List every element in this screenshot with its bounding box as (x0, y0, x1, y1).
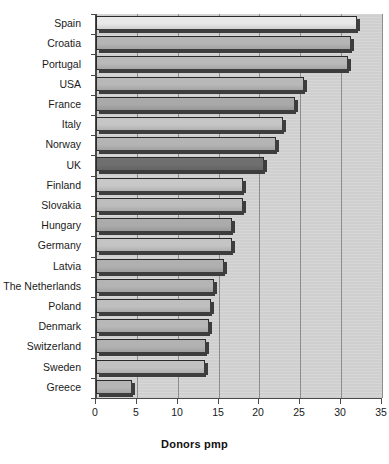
bar-denmark (96, 319, 209, 333)
x-tick-15 (218, 399, 219, 404)
bar-usa (96, 77, 304, 91)
y-label-greece: Greece (47, 381, 81, 393)
y-label-norway: Norway (45, 138, 81, 150)
y-label-croatia: Croatia (47, 37, 81, 49)
bar-croatia (96, 36, 351, 50)
y-label-slovakia: Slovakia (41, 199, 81, 211)
x-tick-25 (299, 399, 300, 404)
x-tick-label-20: 20 (252, 406, 264, 418)
x-tick-5 (136, 399, 137, 404)
y-label-latvia: Latvia (53, 260, 81, 272)
bar-sweden (96, 360, 205, 374)
bar-hungary (96, 218, 232, 232)
x-tick-35 (381, 399, 382, 404)
y-label-uk: UK (66, 159, 81, 171)
bar-slovakia (96, 198, 243, 212)
x-tick-20 (258, 399, 259, 404)
donors-pmp-bar-chart: SpainCroatiaPortugalUSAFranceItalyNorway… (0, 0, 389, 464)
x-tick-10 (177, 399, 178, 404)
y-label-germany: Germany (38, 239, 81, 251)
x-tick-0 (95, 399, 96, 404)
y-label-sweden: Sweden (43, 361, 81, 373)
bar-finland (96, 178, 243, 192)
y-label-poland: Poland (48, 300, 81, 312)
bars-layer (96, 14, 382, 398)
bar-germany (96, 238, 232, 252)
y-label-the-netherlands: The Netherlands (3, 280, 81, 292)
bar-france (96, 97, 295, 111)
y-label-italy: Italy (62, 118, 81, 130)
x-axis-line (95, 398, 382, 399)
bar-norway (96, 137, 276, 151)
bar-portugal (96, 56, 348, 70)
x-tick-label-30: 30 (334, 406, 346, 418)
y-label-denmark: Denmark (38, 320, 81, 332)
x-tick-30 (340, 399, 341, 404)
x-tick-label-0: 0 (92, 406, 98, 418)
bar-uk (96, 157, 264, 171)
bar-latvia (96, 259, 224, 273)
bar-poland (96, 299, 211, 313)
y-label-switzerland: Switzerland (27, 340, 81, 352)
x-tick-label-35: 35 (375, 406, 387, 418)
bar-greece (96, 380, 132, 394)
y-label-portugal: Portugal (42, 58, 81, 70)
x-tick-label-10: 10 (171, 406, 183, 418)
plot-area (95, 14, 382, 398)
gridline-35 (382, 14, 383, 398)
x-tick-label-5: 5 (133, 406, 139, 418)
y-label-spain: Spain (54, 17, 81, 29)
bar-switzerland (96, 339, 206, 353)
x-tick-label-25: 25 (293, 406, 305, 418)
y-axis-category-labels: SpainCroatiaPortugalUSAFranceItalyNorway… (0, 14, 89, 398)
bar-italy (96, 117, 283, 131)
x-axis-title: Donors pmp (0, 438, 389, 450)
bar-spain (96, 16, 357, 30)
y-label-finland: Finland (47, 179, 81, 191)
x-tick-label-15: 15 (212, 406, 224, 418)
bar-the-netherlands (96, 279, 214, 293)
y-label-hungary: Hungary (41, 219, 81, 231)
y-label-usa: USA (59, 78, 81, 90)
y-label-france: France (48, 98, 81, 110)
